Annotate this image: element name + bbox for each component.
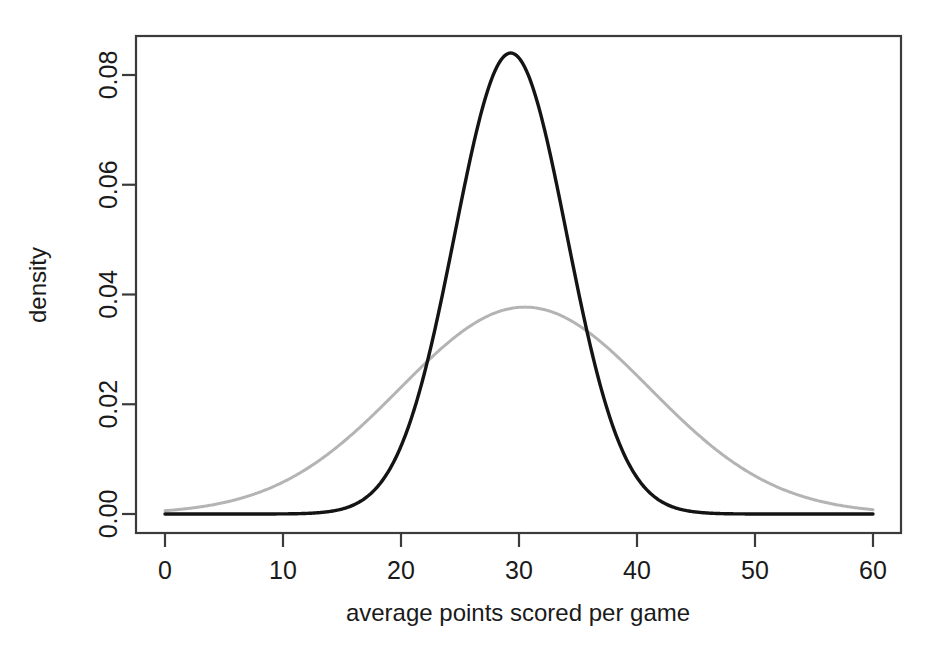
x-tick-label: 30 [505,556,533,584]
x-axis-ticks [165,533,873,547]
y-axis-tick-labels: 0.000.020.040.060.08 [94,51,122,539]
y-axis-ticks [122,75,136,514]
y-tick-label: 0.02 [94,380,122,429]
y-tick-label: 0.06 [94,160,122,209]
plot-canvas: 0102030405060 0.000.020.040.060.08 avera… [0,0,947,666]
x-tick-label: 50 [741,556,769,584]
x-tick-label: 20 [387,556,415,584]
series-line-wide-density [165,307,873,511]
y-tick-label: 0.08 [94,51,122,100]
plot-box-border [136,36,901,533]
density-plot-figure: 0102030405060 0.000.020.040.060.08 avera… [0,0,947,666]
y-tick-label: 0.04 [94,270,122,319]
series-line-narrow-density [165,53,873,514]
y-tick-label: 0.00 [94,490,122,539]
y-axis-title: density [24,247,51,323]
x-tick-label: 60 [859,556,887,584]
x-tick-label: 0 [158,556,172,584]
x-axis-tick-labels: 0102030405060 [158,556,887,584]
x-axis-title: average points scored per game [346,599,690,626]
x-tick-label: 10 [269,556,297,584]
x-tick-label: 40 [623,556,651,584]
